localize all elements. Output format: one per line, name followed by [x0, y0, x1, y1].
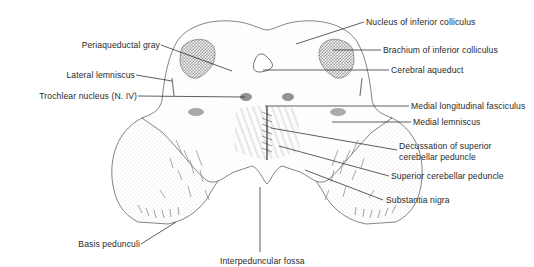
label-periaqueductal-gray: Periaqueductal gray [56, 40, 160, 50]
label-substantia-nigra: Substantia nigra [386, 195, 450, 205]
label-nucleus-inferior-colliculus: Nucleus of inferior colliculus [366, 17, 476, 27]
label-lateral-lemniscus: Lateral lemniscus [40, 70, 135, 80]
label-cerebral-aqueduct: Cerebral aqueduct [391, 65, 463, 75]
label-trochlear-nucleus: Trochlear nucleus (N. IV) [20, 91, 137, 101]
label-decussation-superior-cerebellar-peduncle: Decussation of superior cerebellar pedun… [399, 141, 492, 162]
label-interpeduncular-fossa: Interpeduncular fossa [220, 256, 305, 266]
label-brachium-inferior-colliculus: Brachium of inferior colliculus [383, 45, 498, 55]
label-superior-cerebellar-peduncle: Superior cerebellar peduncle [391, 171, 504, 181]
scp-decussation-texture [234, 106, 300, 160]
label-medial-lemniscus: Medial lemniscus [413, 117, 481, 127]
label-medial-longitudinal-fasciculus: Medial longitudinal fasciculus [411, 101, 525, 111]
label-basis-pedunculi: Basis pedunculi [60, 239, 140, 249]
